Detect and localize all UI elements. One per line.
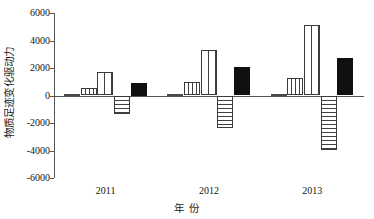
bar-2012-effect-3 [201, 50, 217, 95]
bar-2011-effect-1 [64, 94, 80, 96]
y-axis-tick-label: -6000 [14, 173, 50, 183]
bar-2011-effect-5 [131, 83, 147, 95]
y-axis-tick-mark [50, 178, 54, 179]
bar-2012-effect-5 [234, 67, 250, 95]
y-axis-tick-label: 2000 [14, 63, 50, 73]
y-axis-tick-label: 6000 [14, 8, 50, 18]
x-axis-tick-label-2013: 2013 [302, 185, 322, 196]
bar-2012-effect-4 [217, 96, 233, 129]
x-axis-tick-label-2012: 2012 [199, 185, 219, 196]
y-axis-tick-labels: 6000400020000-2000-4000-6000 [14, 0, 50, 219]
x-axis-title: 年 份 [0, 200, 374, 215]
bar-2013-effect-5 [337, 58, 353, 96]
bar-2013-effect-4 [321, 96, 337, 151]
bar-2012-effect-1 [167, 94, 183, 96]
bar-2013-effect-2 [287, 78, 303, 96]
bar-2011-effect-3 [97, 72, 113, 96]
y-axis-tick-label: -4000 [14, 146, 50, 156]
plot-area [54, 13, 364, 178]
chart-container: 物质足迹变化驱动力 6000400020000-2000-4000-6000 2… [0, 0, 374, 219]
bar-2013-effect-1 [271, 94, 287, 96]
y-axis-tick-label: 0 [14, 91, 50, 101]
bar-2011-effect-4 [114, 96, 130, 115]
bar-2012-effect-2 [184, 82, 200, 95]
bar-2011-effect-2 [81, 88, 97, 96]
y-axis-tick-label: 4000 [14, 36, 50, 46]
bar-2013-effect-3 [304, 25, 320, 96]
y-axis-tick-label: -2000 [14, 118, 50, 128]
x-axis-tick-label-2011: 2011 [96, 185, 116, 196]
